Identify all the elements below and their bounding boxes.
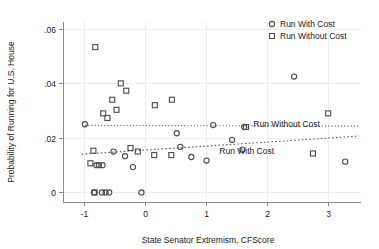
data-point-square	[93, 45, 98, 50]
data-point-square	[310, 151, 315, 156]
data-point-circle	[100, 163, 105, 168]
y-tick-label: 0	[51, 188, 56, 198]
data-point-square	[114, 107, 119, 112]
y-axis-ticks: 0.02.04.06	[44, 25, 63, 198]
data-point-square	[169, 97, 174, 102]
x-tick-label: 1	[204, 209, 209, 219]
legend-label-run-with-cost: Run With Cost	[280, 19, 335, 29]
data-point-circle	[122, 154, 127, 159]
data-point-circle	[242, 124, 247, 129]
data-point-circle	[178, 144, 183, 149]
annotation-label: Run With Cost	[219, 146, 274, 156]
y-tick-label: .02	[44, 134, 56, 144]
data-point-square	[124, 88, 129, 93]
plot-canvas: 0.02.04.06 -10123 Run Without CostRun Wi…	[0, 0, 379, 249]
data-point-circle	[343, 159, 348, 164]
x-tick-label: 2	[265, 209, 270, 219]
data-point-circle	[174, 131, 179, 136]
data-point-square	[169, 153, 174, 158]
y-tick-label: .04	[44, 79, 56, 89]
data-point-square	[152, 153, 157, 158]
gridlines	[63, 22, 361, 202]
inline-annotations: Run Without CostRun With Cost	[219, 119, 320, 156]
data-point-square	[128, 146, 133, 151]
scatter-plot: 0.02.04.06 -10123 Run Without CostRun Wi…	[0, 0, 379, 249]
y-axis-title: Probability of Running for U.S. House	[6, 41, 16, 183]
data-point-circle	[130, 164, 135, 169]
data-point-circle	[189, 154, 194, 159]
x-tick-label: 0	[143, 209, 148, 219]
x-axis-ticks: -10123	[81, 202, 331, 219]
data-point-square	[110, 97, 115, 102]
data-point-square	[91, 148, 96, 153]
data-point-circle	[111, 149, 116, 154]
y-tick-label: .06	[44, 25, 56, 35]
legend-marker-circle	[269, 21, 274, 26]
data-point-square	[152, 103, 157, 108]
data-point-square	[88, 161, 93, 166]
x-axis-title: State Senator Extremism, CFScore	[142, 235, 275, 245]
x-tick-label: -1	[81, 209, 89, 219]
x-tick-label: 3	[326, 209, 331, 219]
legend-marker-square	[270, 34, 275, 39]
data-point-circle	[292, 74, 297, 79]
legend-label-run-without-cost: Run Without Cost	[280, 31, 347, 41]
annotation-label: Run Without Cost	[253, 119, 320, 129]
data-point-circle	[229, 137, 234, 142]
data-point-square	[135, 149, 140, 154]
data-point-circle	[211, 122, 216, 127]
